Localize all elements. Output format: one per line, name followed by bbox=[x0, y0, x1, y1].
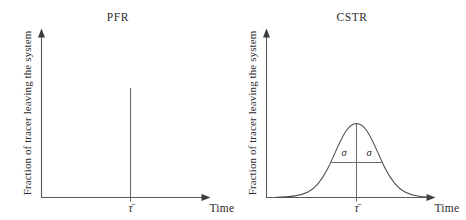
x-axis-arrow-icon-pfr bbox=[202, 194, 211, 201]
y-axis-arrow-icon-pfr bbox=[38, 29, 45, 38]
panel-pfr: PFR τ̄ Time Fraction of tracer leaving t… bbox=[21, 11, 235, 214]
x-tick-label-tau-cstr: τ̄ bbox=[354, 202, 361, 214]
sigma-label-left: σ bbox=[341, 147, 347, 158]
rtd-comparison-figure: PFR τ̄ Time Fraction of tracer leaving t… bbox=[0, 0, 466, 220]
gaussian-curve-cstr bbox=[276, 124, 430, 198]
figure-root: PFR τ̄ Time Fraction of tracer leaving t… bbox=[0, 0, 466, 220]
panel-title-cstr: CSTR bbox=[336, 11, 367, 23]
y-axis-arrow-icon-cstr bbox=[263, 29, 270, 38]
panel-cstr: CSTR σ σ τ̄ Time Fra bbox=[246, 11, 460, 214]
y-axis-label-pfr: Fraction of tracer leaving the system bbox=[21, 30, 33, 195]
x-axis-label-cstr: Time bbox=[434, 202, 459, 214]
panel-title-pfr: PFR bbox=[107, 11, 129, 23]
sigma-label-right: σ bbox=[366, 147, 372, 158]
x-tick-label-tau-pfr: τ̄ bbox=[128, 202, 135, 214]
x-axis-label-pfr: Time bbox=[209, 202, 234, 214]
y-axis-label-cstr: Fraction of tracer leaving the system bbox=[246, 30, 258, 195]
